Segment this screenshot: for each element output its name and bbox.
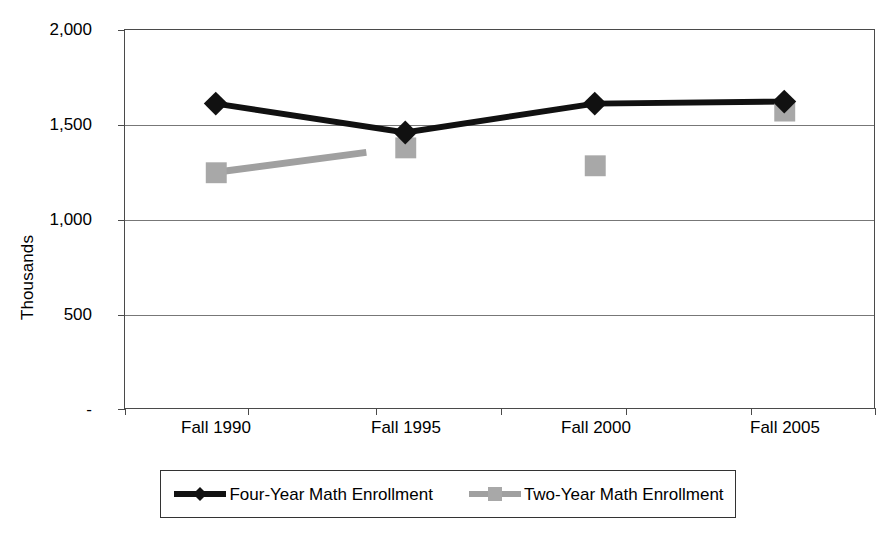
x-axis-label-2: Fall 2000 xyxy=(526,418,666,438)
y-tickmark-1000 xyxy=(118,220,125,221)
x-tickmark-2 xyxy=(376,408,377,415)
legend-entry-four-year: Four-Year Math Enrollment xyxy=(172,485,432,503)
x-tickmark-1 xyxy=(248,408,249,415)
marker-four-year-2000 xyxy=(583,92,607,116)
series-four-year-line xyxy=(216,102,784,133)
y-axis-tick-label-zero: - xyxy=(0,401,92,418)
y-tickmark-zero xyxy=(118,409,125,410)
y-axis-tick-label-500: 500 xyxy=(0,306,92,323)
y-axis-tick-label-1000: 1,000 xyxy=(0,211,92,228)
marker-two-year-2000 xyxy=(585,155,606,176)
x-tickmark-6 xyxy=(875,408,876,415)
y-tickmark-1500 xyxy=(118,125,125,126)
line-chart: Thousands 2,000 1,500 1,000 500 - xyxy=(0,0,888,537)
x-axis-label-1: Fall 1995 xyxy=(336,418,476,438)
legend-label-two-year: Two-Year Math Enrollment xyxy=(524,486,724,503)
chart-legend: Four-Year Math Enrollment Two-Year Math … xyxy=(160,470,736,518)
legend-marker-square-icon xyxy=(467,485,523,503)
x-tickmark-0 xyxy=(125,408,126,415)
series-two-year-line xyxy=(216,152,367,172)
y-axis-tick-label-1500: 1,500 xyxy=(0,116,92,133)
legend-label-four-year: Four-Year Math Enrollment xyxy=(229,486,432,503)
marker-four-year-1990 xyxy=(204,92,228,116)
plot-area xyxy=(124,29,875,409)
y-axis-title-label: Thousands xyxy=(18,150,38,320)
marker-two-year-1990 xyxy=(206,162,227,183)
x-axis-label-3: Fall 2005 xyxy=(715,418,855,438)
legend-entry-two-year: Two-Year Math Enrollment xyxy=(467,485,724,503)
series-layer xyxy=(125,30,874,408)
y-tickmark-2000 xyxy=(118,30,125,31)
x-tickmark-3 xyxy=(501,408,502,415)
x-tickmark-5 xyxy=(751,408,752,415)
x-tickmark-4 xyxy=(626,408,627,415)
y-axis-tick-label-2000: 2,000 xyxy=(0,21,92,38)
legend-marker-diamond-icon xyxy=(172,485,228,503)
y-tickmark-500 xyxy=(118,315,125,316)
x-axis-label-0: Fall 1990 xyxy=(146,418,286,438)
